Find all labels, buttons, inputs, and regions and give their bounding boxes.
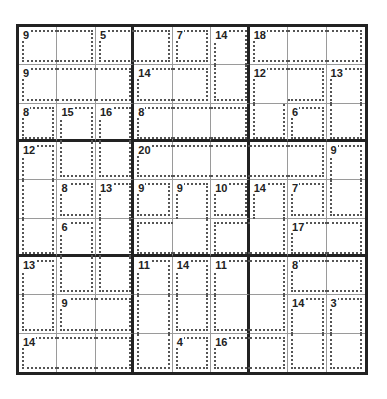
cage-sum: 20 [137,145,151,156]
cage-sum: 7 [176,30,184,41]
cell-r1c2[interactable] [57,27,95,65]
killer-sudoku-board: 9571418914121381516861220981399107614171… [16,24,368,375]
cell-r6c6[interactable] [211,219,249,257]
cage-sum: 11 [137,260,151,271]
cell-r4c8[interactable] [288,142,326,180]
cage-sum: 12 [22,145,36,156]
cage-sum: 18 [253,30,267,41]
cell-r6c1[interactable] [19,219,57,257]
cell-r9c7[interactable] [250,334,288,372]
cage-sum: 4 [176,337,184,348]
cell-r1c9[interactable] [327,27,365,65]
cell-r9c8[interactable] [288,334,326,372]
cage-sum: 13 [22,260,36,271]
cage-sum: 9 [330,145,338,156]
cage-sum: 16 [214,337,228,348]
cage-sum: 8 [60,183,68,194]
cage-sum: 13 [99,183,113,194]
cage-sum: 14 [253,183,267,194]
cell-r7c7[interactable] [250,257,288,295]
cage-sum: 9 [176,183,184,194]
cage-sum: 7 [291,183,299,194]
cell-r9c9[interactable] [327,334,365,372]
cell-r5c9[interactable] [327,180,365,218]
cell-r2c3[interactable] [96,65,134,103]
cell-r8c6[interactable] [211,295,249,333]
cell-r4c3[interactable] [96,142,134,180]
cell-r6c5[interactable] [173,219,211,257]
cage-sum: 9 [22,30,30,41]
cage-sum: 8 [137,107,145,118]
cell-r8c4[interactable] [134,295,172,333]
cage-sum: 8 [22,107,30,118]
cell-r4c2[interactable] [57,142,95,180]
cell-r2c5[interactable] [173,65,211,103]
cage-sum: 11 [214,260,228,271]
cell-r5c1[interactable] [19,180,57,218]
cell-r3c6[interactable] [211,104,249,142]
cell-r2c8[interactable] [288,65,326,103]
cell-r7c2[interactable] [57,257,95,295]
cage-sum: 5 [99,30,107,41]
cage-sum: 3 [330,298,338,309]
cell-r7c9[interactable] [327,257,365,295]
cage-sum: 9 [137,183,145,194]
cell-r9c4[interactable] [134,334,172,372]
cell-r6c7[interactable] [250,219,288,257]
cage-sum: 14 [22,337,36,348]
cage-sum: 8 [291,260,299,271]
cell-r8c5[interactable] [173,295,211,333]
cage-sum: 14 [137,68,151,79]
cage-sum: 6 [291,107,299,118]
cage-sum: 9 [22,68,30,79]
cell-r6c3[interactable] [96,219,134,257]
cage-sum: 6 [60,222,68,233]
cell-r2c6[interactable] [211,65,249,103]
cell-r6c9[interactable] [327,219,365,257]
cage-sum: 9 [60,298,68,309]
cell-r8c7[interactable] [250,295,288,333]
cell-r3c9[interactable] [327,104,365,142]
cell-r4c5[interactable] [173,142,211,180]
cage-sum: 14 [214,30,228,41]
cage-sum: 14 [291,298,305,309]
cell-r9c3[interactable] [96,334,134,372]
cell-r8c3[interactable] [96,295,134,333]
cage-sum: 13 [330,68,344,79]
cage-sum: 14 [176,260,190,271]
cell-r4c7[interactable] [250,142,288,180]
cell-r3c5[interactable] [173,104,211,142]
cage-sum: 16 [99,107,113,118]
cell-r3c7[interactable] [250,104,288,142]
cell-r6c4[interactable] [134,219,172,257]
cage-sum: 10 [214,183,228,194]
cage-sum: 15 [60,107,74,118]
cell-r2c2[interactable] [57,65,95,103]
cage-sum: 12 [253,68,267,79]
cell-r9c2[interactable] [57,334,95,372]
cell-r1c8[interactable] [288,27,326,65]
cell-r8c1[interactable] [19,295,57,333]
cell-r7c3[interactable] [96,257,134,295]
cell-r4c6[interactable] [211,142,249,180]
cage-sum: 17 [291,222,305,233]
cell-r1c4[interactable] [134,27,172,65]
